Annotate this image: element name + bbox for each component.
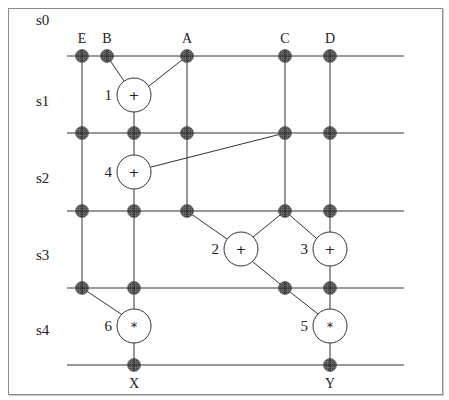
operator-symbol: + [236,242,247,257]
operation-id: 6 [105,318,113,334]
operation-1: +1 [105,78,152,112]
step-label-s4: s4 [36,322,50,338]
operation-3: +3 [301,232,348,266]
data-edge [82,288,121,314]
register-node [324,205,337,218]
operation-id: 2 [212,241,220,257]
register-node [324,50,337,63]
input-label-C: C [280,31,289,46]
operation-6: *6 [105,309,152,343]
step-label-s3: s3 [36,247,49,263]
register-node [324,127,337,140]
input-label-E: E [78,31,87,46]
register-node [76,127,89,140]
operation-id: 3 [301,241,309,257]
operator-symbol: + [129,88,140,103]
operation-2: +2 [212,232,259,266]
data-edge [151,133,285,167]
step-label-s1: s1 [36,93,49,109]
register-node [128,359,141,372]
register-node [128,127,141,140]
register-node [279,205,292,218]
operator-symbol: * [131,319,138,334]
output-label-X: X [129,376,139,391]
register-node [181,50,194,63]
input-label-B: B [102,31,111,46]
operation-id: 4 [105,164,113,180]
register-node [128,282,141,295]
operation-id: 5 [301,318,309,334]
register-node [279,127,292,140]
operation-id: 1 [105,87,113,103]
dataflow-diagram: +1+4+2+3*6*5 s0s1s2s3s4EBACDXY [0,0,449,400]
operator-symbol: + [129,165,140,180]
data-edge [149,56,187,86]
register-node [76,282,89,295]
register-node [76,205,89,218]
labels: s0s1s2s3s4EBACDXY [36,12,335,391]
register-node [324,282,337,295]
register-node [76,50,89,63]
step-rails [67,56,404,365]
operator-symbol: * [327,319,334,334]
register-node [324,359,337,372]
output-label-Y: Y [325,376,335,391]
register-node [128,205,141,218]
register-node [181,127,194,140]
operation-5: *5 [301,309,348,343]
step-label-s2: s2 [36,170,49,186]
input-label-D: D [325,31,335,46]
operator-symbol: + [325,242,336,257]
data-edge [187,211,227,239]
register-node [279,50,292,63]
step-label-s0: s0 [36,12,49,28]
register-node [101,50,114,63]
register-node [279,282,292,295]
input-label-A: A [182,31,193,46]
operation-4: +4 [105,155,152,189]
register-node [181,205,194,218]
